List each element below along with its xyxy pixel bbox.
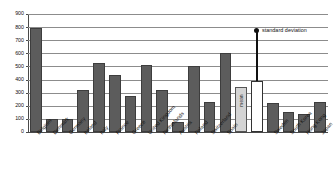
mean-bar-inline-label: mean xyxy=(239,94,244,106)
gridline xyxy=(28,66,328,67)
y-axis-tick-mark xyxy=(26,40,28,41)
y-axis-tick-label: 600 xyxy=(15,51,24,56)
y-axis-tick-label: 100 xyxy=(15,116,24,121)
bar-belgium xyxy=(30,28,42,132)
y-axis-tick-label: 300 xyxy=(15,90,24,95)
y-axis-tick-label: 500 xyxy=(15,64,24,69)
x-axis-labels: BelgiumDenmarkGermanyIrelandItalyFranceG… xyxy=(0,132,332,173)
y-axis-tick-label: 900 xyxy=(15,11,24,16)
y-axis-tick-mark xyxy=(26,93,28,94)
y-axis-tick-mark xyxy=(26,80,28,81)
gridline xyxy=(28,53,328,54)
y-axis-tick-mark xyxy=(26,106,28,107)
y-axis-tick-mark xyxy=(26,14,28,15)
gridline xyxy=(28,93,328,94)
y-axis-tick-mark xyxy=(26,27,28,28)
y-axis-tick-mark xyxy=(26,66,28,67)
y-axis-tick-mark xyxy=(26,119,28,120)
y-axis-tick-mark xyxy=(26,53,28,54)
y-axis-tick-label: 400 xyxy=(15,77,24,82)
annotation-leader-line xyxy=(256,30,257,81)
annotation-label-standard-deviation: standard deviation xyxy=(262,27,307,33)
gridline xyxy=(28,40,328,41)
y-axis-tick-label: 800 xyxy=(15,25,24,30)
bar-standard-deviation xyxy=(251,81,263,132)
y-axis-tick-label: 200 xyxy=(15,103,24,108)
gridline xyxy=(28,14,328,15)
y-axis-tick-mark xyxy=(26,132,28,133)
gridline xyxy=(28,80,328,81)
y-axis-tick-label: 700 xyxy=(15,38,24,43)
gridline xyxy=(28,106,328,107)
annotation-dot xyxy=(254,28,259,33)
bar-france xyxy=(109,75,121,132)
